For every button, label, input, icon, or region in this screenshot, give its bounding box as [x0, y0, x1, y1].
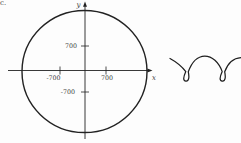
- x-axis-arrowhead-icon: [147, 69, 152, 73]
- x-axis-label: x: [152, 74, 156, 82]
- x-tick-label-negative: -700: [46, 74, 60, 81]
- circle-graph: 700 -700 -700 700 y x: [8, 1, 156, 139]
- math-figure-svg: 700 -700 -700 700 y x: [0, 0, 241, 143]
- figure-canvas: c. 700 -700 -700 700 y x: [0, 0, 241, 143]
- circle-curve: [22, 11, 147, 133]
- y-tick-label-negative: -700: [61, 88, 75, 95]
- cycloid-figure: [170, 56, 241, 81]
- prolate-cycloid-curve: [170, 56, 241, 81]
- y-axis-arrowhead-icon: [83, 2, 87, 7]
- y-tick-label-positive: 700: [65, 42, 77, 49]
- x-tick-label-positive: 700: [101, 74, 113, 81]
- y-axis-label: y: [76, 1, 82, 9]
